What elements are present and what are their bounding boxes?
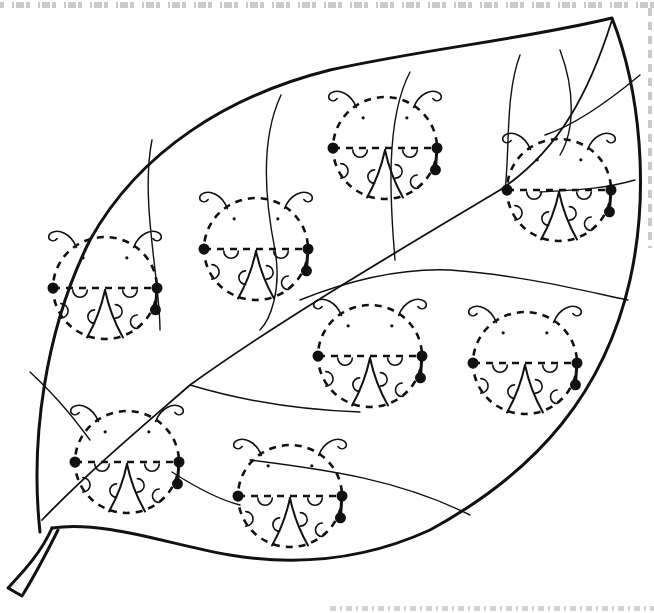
wing-line-right [559,192,577,239]
wing-line-left [352,358,370,405]
eye-dot [310,464,313,467]
start-dot [70,457,81,468]
ladybug-tracing-figure [48,231,163,339]
spot-arc [239,271,246,285]
leaf-stem [8,528,58,596]
spot-arc [123,290,138,297]
spot-arc [224,251,239,258]
wing-line-right [370,358,388,405]
spot-arc [493,365,508,372]
antenna-right-icon [414,91,442,107]
spot-arc [577,192,592,199]
spot-arc [410,175,417,189]
spot-arc [152,489,159,503]
spot-arc [584,217,591,231]
worksheet-canvas [0,0,654,613]
antenna-left-icon [49,231,77,247]
spot-arc [258,498,273,505]
antenna-right-icon [319,439,347,455]
start-dot [502,185,513,196]
spot-arc [543,365,558,372]
eye-dot [147,430,150,433]
eye-dot [405,116,408,119]
wing-line-right [385,150,403,197]
spot-arc [542,212,549,226]
start-dot [328,143,339,154]
spot-arc [338,358,353,365]
spot-arc [273,518,280,532]
eye-dot [579,158,582,161]
start-dot [301,265,312,276]
eye-dot [545,331,548,334]
antenna-right-icon [285,192,313,208]
antenna-right-icon [554,306,582,322]
eye-dot [267,464,270,467]
start-dot [172,478,183,489]
ladybug-group [48,91,617,547]
start-dot [430,164,441,175]
eye-dot [125,256,128,259]
wing-line-left [541,192,559,239]
wing-line-right [127,464,145,511]
start-dot [604,206,615,217]
ladybug-tracing-figure [468,306,583,414]
antenna-left-icon [469,306,497,322]
start-dot [415,372,426,383]
eye-dot [362,116,365,119]
wing-line-left [507,365,525,412]
leaf-midrib [42,20,612,520]
start-dot [313,351,324,362]
ladybug-tracing-figure [70,405,185,513]
wing-line-left [109,464,127,511]
spot-arc [88,310,95,324]
antenna-left-icon [503,133,531,149]
spot-arc [508,385,515,399]
spot-arc [266,266,273,280]
eye-dot [536,158,539,161]
spot-arc [527,192,542,199]
start-dot [468,358,479,369]
spot-arc [569,207,576,221]
wing-line-right [525,365,543,412]
spot-arc [130,315,137,329]
wing-line-right [256,251,274,298]
spot-arc [308,498,323,505]
wing-line-right [290,498,308,545]
start-dot [199,244,210,255]
ladybug-tracing-figure [233,439,348,547]
start-dot [48,283,59,294]
wing-line-left [238,251,256,298]
start-dot [570,379,581,390]
spot-arc [73,290,88,297]
eye-dot [276,217,279,220]
spot-arc [388,358,403,365]
eye-dot [502,331,505,334]
ladybug-tracing-figure [313,299,428,407]
wing-line-left [272,498,290,545]
spot-arc [353,150,368,157]
eye-dot [233,217,236,220]
spot-arc [315,523,322,537]
spot-arc [380,373,387,387]
wing-line-left [367,150,385,197]
spot-arc [110,484,117,498]
ladybug-tracing-figure [328,91,443,199]
spot-arc [281,276,288,290]
antenna-left-icon [329,91,357,107]
start-dot [233,491,244,502]
antenna-right-icon [156,405,184,421]
ladybug-tracing-figure [199,192,314,300]
start-dot [335,512,346,523]
spot-arc [395,383,402,397]
antenna-right-icon [399,299,427,315]
wing-line-left [87,290,105,337]
eye-dot [390,324,393,327]
antenna-right-icon [134,231,162,247]
antenna-left-icon [71,405,99,421]
spot-arc [137,479,144,493]
antenna-right-icon [588,133,616,149]
antenna-left-icon [200,192,228,208]
spot-arc [300,513,307,527]
wing-line-right [105,290,123,337]
spot-arc [403,150,418,157]
